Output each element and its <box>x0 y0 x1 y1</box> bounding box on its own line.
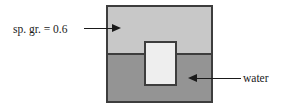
fluid-tank <box>106 5 213 103</box>
floating-block <box>144 41 177 86</box>
lower-fluid-label: water <box>243 73 269 85</box>
upper-fluid-leader-line <box>84 28 114 29</box>
arrow-left-icon <box>188 74 197 82</box>
lower-fluid-leader-line <box>196 78 241 79</box>
figure-container: sp. gr. = 0.6 water <box>0 0 288 111</box>
arrow-right-icon <box>112 24 121 32</box>
upper-fluid-label: sp. gr. = 0.6 <box>13 24 67 36</box>
